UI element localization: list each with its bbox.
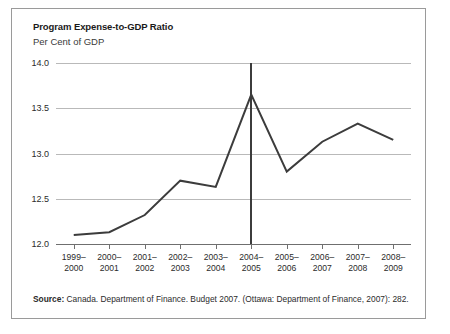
x-axis-tick-label: 2008–2009 <box>381 252 405 273</box>
x-axis-tick <box>145 244 146 249</box>
x-axis-tick-label: 2003–2004 <box>204 252 228 273</box>
series-line-chart <box>56 63 411 244</box>
x-axis-tick <box>216 244 217 249</box>
y-axis-tick-label: 14.0 <box>31 58 49 68</box>
chart-plot-area: 12.012.513.013.514.01999–20002000–200120… <box>12 9 427 320</box>
x-axis-tick <box>322 244 323 249</box>
figure-panel: Program Expense-to-GDP Ratio Per Cent of… <box>11 8 426 319</box>
y-axis-tick-label: 13.0 <box>31 149 49 159</box>
source-text: Canada. Department of Finance. Budget 20… <box>64 294 409 304</box>
x-axis-tick <box>251 244 252 249</box>
x-axis-tick-label: 2006–2007 <box>310 252 334 273</box>
source-label: Source: <box>33 294 64 304</box>
plot-canvas: 12.012.513.013.514.01999–20002000–200120… <box>56 63 411 244</box>
x-axis-tick <box>109 244 110 249</box>
y-axis-tick-label: 12.0 <box>31 239 49 249</box>
series-line <box>74 95 394 235</box>
x-axis-tick-label: 2000–2001 <box>97 252 121 273</box>
x-axis-tick-label: 2002–2003 <box>168 252 192 273</box>
x-axis-tick-label: 2007–2008 <box>346 252 370 273</box>
x-axis-tick <box>74 244 75 249</box>
y-axis-tick-label: 12.5 <box>31 194 49 204</box>
x-axis-tick-label: 2004–2005 <box>239 252 263 273</box>
x-axis-tick <box>358 244 359 249</box>
y-axis-tick-label: 13.5 <box>31 103 49 113</box>
x-axis-tick-label: 2001–2002 <box>133 252 157 273</box>
x-axis-tick-label: 2005–2006 <box>275 252 299 273</box>
x-axis-tick-label: 1999–2000 <box>62 252 86 273</box>
x-axis-tick <box>180 244 181 249</box>
x-axis-tick <box>287 244 288 249</box>
source-note: Source: Canada. Department of Finance. B… <box>33 294 411 305</box>
x-axis-tick <box>393 244 394 249</box>
